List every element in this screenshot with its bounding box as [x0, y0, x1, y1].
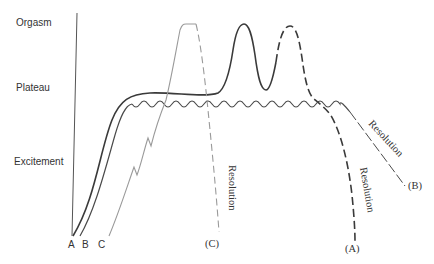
resolution-label-c: Resolution [227, 165, 238, 211]
curve-a-rise-plateau [73, 24, 276, 236]
end-label-a: (A) [345, 243, 360, 255]
curve-c-rise [109, 24, 196, 236]
resolution-label-b: Resolution [367, 118, 407, 159]
curve-c-resolution [196, 24, 219, 232]
label-plateau: Plateau [16, 82, 50, 93]
resolution-label-a: Resolution [358, 166, 377, 213]
curve-b-rise [80, 104, 132, 236]
start-label-c: C [98, 239, 105, 250]
start-label-b: B [82, 239, 89, 250]
y-axis [72, 13, 77, 236]
sexual-response-cycle-diagram: Orgasm Plateau Excitement A B C Resoluti… [0, 0, 434, 264]
start-label-a: A [68, 239, 75, 250]
curve-a-second-orgasm [276, 26, 355, 242]
label-excitement: Excitement [14, 156, 64, 167]
label-orgasm: Orgasm [16, 17, 52, 28]
end-label-c: (C) [205, 238, 220, 250]
end-label-b: (B) [408, 180, 423, 192]
